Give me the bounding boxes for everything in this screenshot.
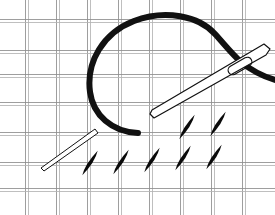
background-rect <box>0 0 275 215</box>
embroidery-illustration: Embroidery stitch diagram satin / slante… <box>0 0 275 215</box>
stitch-diagram-canvas <box>0 0 275 215</box>
